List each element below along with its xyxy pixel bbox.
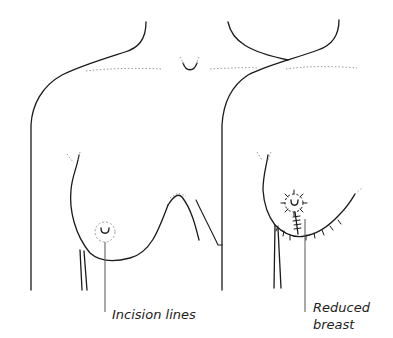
right-figure-side-line-2 (278, 228, 281, 288)
diagram: Incision lines Reduced breast (0, 0, 393, 338)
reduced-breast-label: Reduced breast (313, 299, 370, 333)
reduced-breast-label-line2: breast (313, 316, 370, 333)
left-figure-armpit-crease (71, 155, 168, 261)
right-figure-side-line-1 (274, 225, 275, 288)
left-figure-side-line-1 (80, 250, 82, 290)
right-collarbone-dotted (286, 67, 357, 69)
left-figure-side-line-2 (84, 251, 87, 290)
right-figure-shoulder-outline (222, 20, 339, 290)
right-nipple (291, 200, 298, 205)
left-figure-shoulder-outline (31, 22, 146, 290)
vertical-suture (295, 212, 298, 234)
right-figure-left-side (196, 200, 222, 245)
incision-lines-label: Incision lines (112, 306, 196, 323)
diagram-canvas (0, 0, 393, 338)
center-collarbone-dotted (210, 68, 257, 69)
right-armpit-dotted-1 (257, 152, 262, 160)
left-figure-breast-outer (168, 195, 199, 240)
left-nipple (101, 228, 109, 233)
neck-notch (183, 63, 197, 70)
left-collarbone-dotted (86, 68, 163, 71)
reduced-breast-label-line1: Reduced (313, 299, 370, 316)
left-armpit-dotted-1 (67, 154, 73, 162)
right-breast-top-dotted (355, 188, 362, 194)
left-areola-incision (95, 222, 115, 242)
right-figure-neck-left (228, 22, 288, 60)
